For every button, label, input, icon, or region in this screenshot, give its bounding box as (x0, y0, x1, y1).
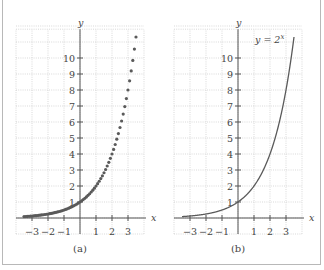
y-tick-label: 2 (227, 181, 233, 192)
panel-b-caption: (b) (231, 243, 245, 254)
y-tick-label: 5 (227, 133, 233, 144)
x-tick-label: −2 (199, 226, 213, 237)
panel-a-caption: (a) (73, 243, 87, 254)
y-tick-label: 9 (69, 69, 75, 80)
x-tick-label: 3 (125, 226, 131, 237)
x-tick-label: −3 (183, 226, 197, 237)
x-tick-label: −2 (41, 226, 55, 237)
y-tick-label: 8 (227, 85, 233, 96)
x-tick-label: −3 (25, 226, 39, 237)
x-tick-label: 1 (251, 226, 257, 237)
y-tick-label: 8 (69, 85, 75, 96)
x-tick-label: 1 (93, 226, 99, 237)
y-tick-label: 4 (69, 149, 75, 160)
y-tick-label: 9 (227, 69, 233, 80)
x-tick-label: −1 (215, 226, 229, 237)
y-tick-label: 6 (227, 117, 233, 128)
y-tick-label: 7 (227, 101, 233, 112)
y-tick-label: 2 (69, 181, 75, 192)
curve-label-exponent: x (280, 33, 284, 41)
y-tick-label: 3 (69, 165, 75, 176)
panel-b-chart: xy−3−2−112312345678910 (174, 17, 315, 237)
y-axis-label: y (235, 17, 242, 28)
x-axis-label: x (151, 212, 157, 223)
x-axis-label: x (309, 212, 315, 223)
x-tick-label: 2 (109, 226, 115, 237)
y-axis-label: y (77, 17, 84, 28)
panel-a-chart: xy−3−2−112312345678910 (16, 17, 157, 237)
figure: xy−3−2−112312345678910 xy−3−2−1123123456… (0, 0, 324, 270)
curve-label: y = 2x (254, 33, 284, 45)
y-tick-label: 6 (69, 117, 75, 128)
y-tick-label: 7 (69, 101, 75, 112)
y-tick-label: 3 (227, 165, 233, 176)
y-tick-label: 10 (63, 53, 75, 64)
y-tick-label: 4 (227, 149, 233, 160)
y-tick-label: 10 (221, 53, 233, 64)
curve-label-base: y = 2 (254, 34, 280, 45)
x-tick-label: 3 (283, 226, 289, 237)
y-tick-label: 5 (69, 133, 75, 144)
x-tick-label: −1 (57, 226, 71, 237)
x-tick-label: 2 (267, 226, 273, 237)
